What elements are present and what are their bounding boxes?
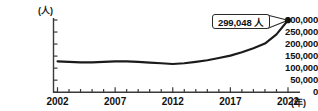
axis-lines [53, 18, 300, 93]
x-tick-label: 2022 [277, 96, 299, 107]
y-tick-label: 100,000 [268, 62, 318, 73]
y-tick-label: 50,000 [268, 74, 318, 85]
x-tick-label: 2002 [46, 96, 68, 107]
y-tick-label: 200,000 [268, 38, 318, 49]
y-tick-label: 250,000 [268, 26, 318, 37]
value-callout-label: 299,048 人 [218, 15, 264, 29]
value-callout: 299,048 人 [212, 14, 270, 29]
y-tick-label: 150,000 [268, 50, 318, 61]
x-tick-label: 2007 [104, 96, 126, 107]
x-tick-marks [58, 87, 289, 92]
x-tick-label: 2012 [162, 96, 184, 107]
line-chart: (人) (年) 299,048 人 050,000100,000150,0002… [0, 0, 318, 111]
y-tick-label: 300,000 [268, 14, 318, 25]
x-tick-label: 2017 [219, 96, 241, 107]
